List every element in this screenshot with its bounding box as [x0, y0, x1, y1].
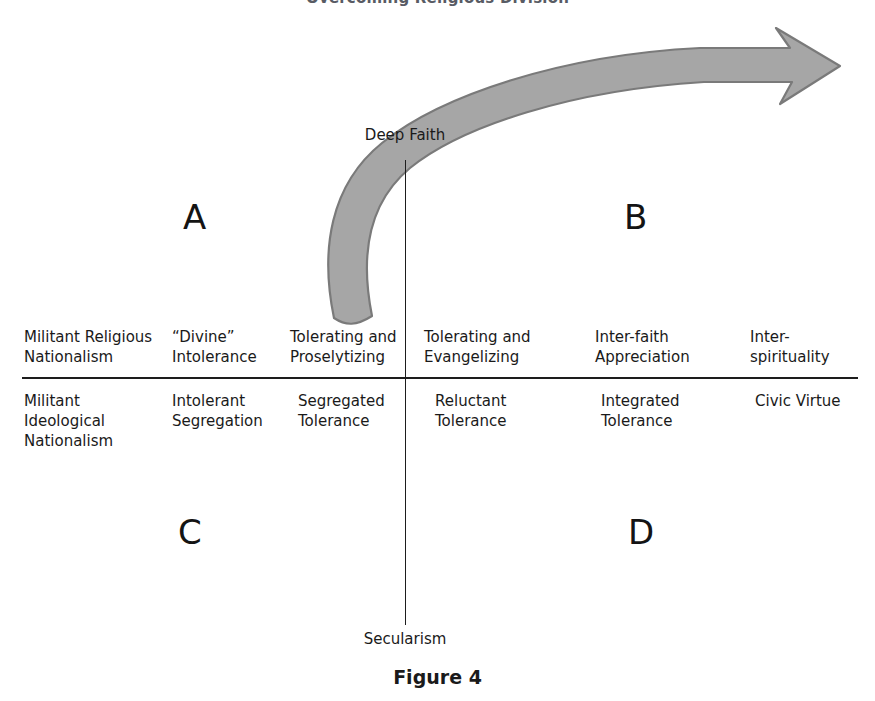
lower-label-1: Intolerant Segregation	[172, 392, 300, 432]
axis-label-deep-faith: Deep Faith	[0, 126, 810, 144]
quadrant-label-b: B	[624, 200, 647, 234]
lower-label-5: Civic Virtue	[755, 392, 855, 412]
upper-label-3: Tolerating and Evangelizing	[424, 328, 576, 368]
quadrant-label-a: A	[183, 200, 206, 234]
upper-label-5: Inter-spirituality	[750, 328, 862, 368]
figure-container: Overcoming Religious Division Deep Faith…	[0, 0, 875, 701]
lower-label-4: Integrated Tolerance	[601, 392, 729, 432]
upper-label-0: Militant Religious Nationalism	[24, 328, 174, 368]
upper-label-2: Tolerating and Proselytizing	[290, 328, 398, 368]
upper-label-4: Inter-faith Appreciation	[595, 328, 735, 368]
axis-label-secularism: Secularism	[0, 630, 810, 648]
lower-label-2: Segregated Tolerance	[298, 392, 410, 432]
lower-label-0: Militant Ideological Nationalism	[24, 392, 164, 452]
lower-label-row: Militant Ideological Nationalism Intoler…	[0, 392, 875, 478]
figure-title: Overcoming Religious Division	[0, 0, 875, 7]
upper-label-row: Militant Religious Nationalism “Divine” …	[0, 296, 875, 374]
horizontal-axis-line	[22, 377, 858, 379]
lower-label-3: Reluctant Tolerance	[435, 392, 559, 432]
quadrant-label-d: D	[628, 515, 654, 549]
figure-caption: Figure 4	[0, 666, 875, 688]
upper-label-1: “Divine” Intolerance	[172, 328, 292, 368]
quadrant-label-c: C	[178, 515, 202, 549]
